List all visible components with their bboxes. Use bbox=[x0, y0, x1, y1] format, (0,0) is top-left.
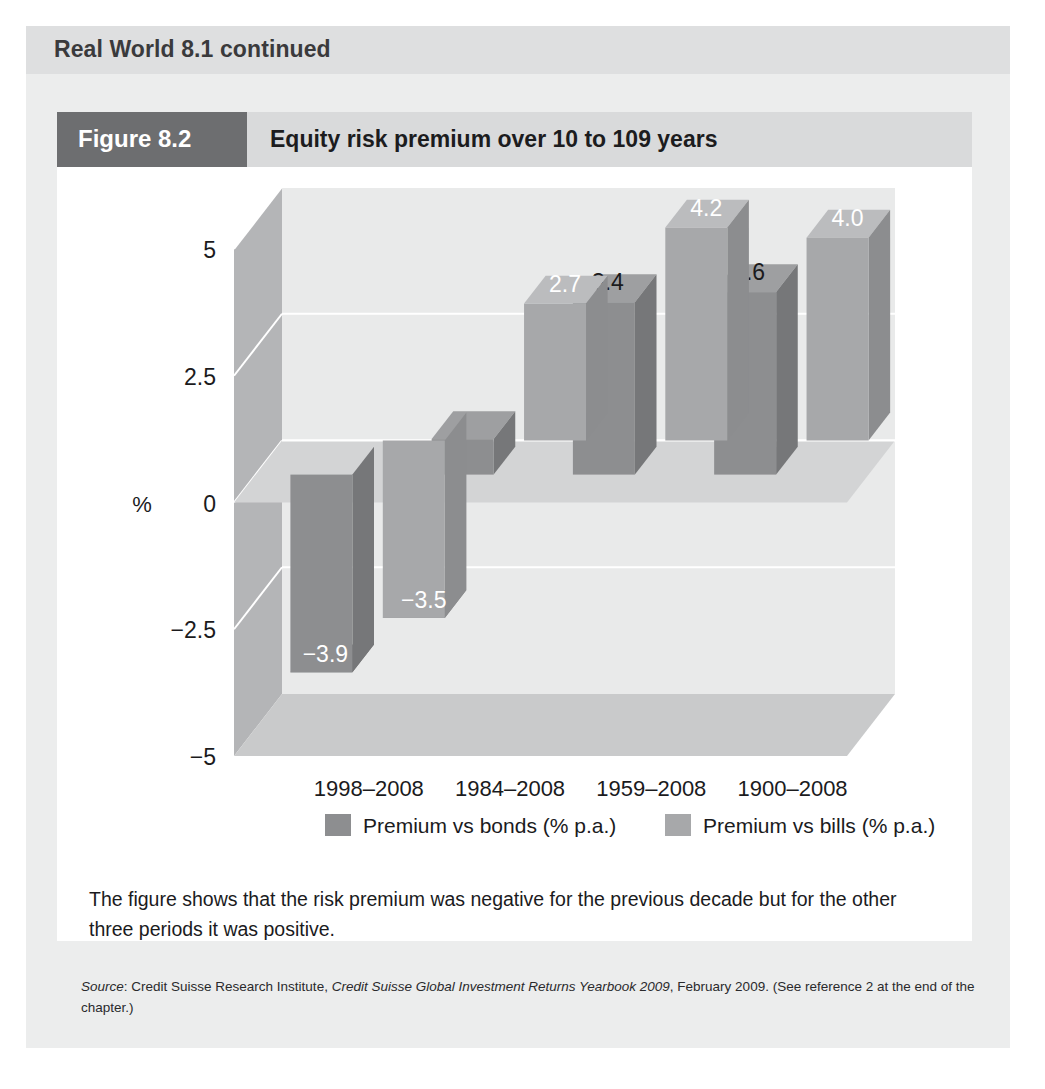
legend-swatch bbox=[325, 814, 351, 836]
bar-front-face bbox=[807, 238, 869, 441]
source-note: Source: Credit Suisse Research Institute… bbox=[81, 976, 1021, 1018]
real-world-header: Real World 8.1 continued bbox=[26, 26, 1010, 74]
bar-value-label: 2.7 bbox=[549, 271, 581, 297]
legend-item[interactable]: Premium vs bills (% p.a.) bbox=[665, 814, 935, 837]
bar-value-label: 4.0 bbox=[832, 205, 864, 231]
figure-title-bar: Figure 8.2 Equity risk premium over 10 t… bbox=[57, 112, 972, 167]
legend-label: Premium vs bills (% p.a.) bbox=[703, 814, 935, 837]
legend-swatch bbox=[665, 814, 691, 836]
bar-side-face bbox=[635, 274, 657, 474]
figure-title: Equity risk premium over 10 to 109 years bbox=[270, 126, 717, 153]
bar-bills: 2.7 bbox=[524, 271, 608, 441]
bar-side-face bbox=[445, 413, 467, 618]
real-world-box: Real World 8.1 continued Figure 8.2 Equi… bbox=[26, 26, 1010, 1048]
legend-item[interactable]: Premium vs bonds (% p.a.) bbox=[325, 814, 616, 837]
bar-bills: 4.2 bbox=[665, 195, 749, 441]
bar-side-face bbox=[727, 200, 749, 441]
bar-front-face bbox=[665, 228, 727, 441]
x-axis-category-label: 1900–2008 bbox=[737, 776, 847, 801]
real-world-header-title: Real World 8.1 continued bbox=[54, 36, 331, 63]
x-axis-category-label: 1998–2008 bbox=[314, 776, 424, 801]
figure-caption: The figure shows that the risk premium w… bbox=[89, 884, 939, 944]
y-axis-tick-label: 2.5 bbox=[184, 364, 216, 390]
y-axis-tick-label: 0 bbox=[203, 491, 216, 517]
source-label: Source bbox=[81, 979, 124, 994]
bar-chart-3d: 52.50−2.5−5%4.03.64.23.42.7−3.5−3.91998–… bbox=[57, 167, 972, 882]
page-root: Real World 8.1 continued Figure 8.2 Equi… bbox=[0, 0, 1045, 1089]
y-axis-tick-label: 5 bbox=[203, 237, 216, 263]
bar-front-face bbox=[524, 304, 586, 441]
figure-tag-badge: Figure 8.2 bbox=[57, 112, 247, 167]
y-axis-unit-label: % bbox=[132, 492, 152, 517]
figure-panel: Figure 8.2 Equity risk premium over 10 t… bbox=[57, 112, 972, 941]
bar-value-label: −3.9 bbox=[303, 641, 348, 667]
bar-side-face bbox=[352, 447, 374, 673]
x-axis-category-label: 1984–2008 bbox=[455, 776, 565, 801]
source-work-title: Credit Suisse Global Investment Returns … bbox=[332, 979, 670, 994]
bar-side-face bbox=[586, 276, 608, 441]
bar-bills: 4.0 bbox=[807, 205, 891, 441]
bar-bills: −3.5 bbox=[383, 413, 467, 618]
chart-area: 52.50−2.5−5%4.03.64.23.42.7−3.5−3.91998–… bbox=[57, 167, 972, 882]
x-axis-category-label: 1959–2008 bbox=[596, 776, 706, 801]
bar-side-face bbox=[869, 210, 891, 441]
legend-label: Premium vs bonds (% p.a.) bbox=[363, 814, 616, 837]
y-axis-tick-label: −5 bbox=[190, 744, 216, 770]
bar-bonds: −3.9 bbox=[290, 447, 374, 673]
bar-side-face bbox=[776, 264, 798, 474]
chart-floor bbox=[234, 694, 895, 756]
source-publisher: Credit Suisse Research Institute, bbox=[131, 979, 331, 994]
y-axis-tick-label: −2.5 bbox=[171, 617, 216, 643]
figure-tag-label: Figure 8.2 bbox=[78, 125, 191, 153]
bar-value-label: −3.5 bbox=[401, 587, 446, 613]
bar-value-label: 4.2 bbox=[690, 195, 722, 221]
